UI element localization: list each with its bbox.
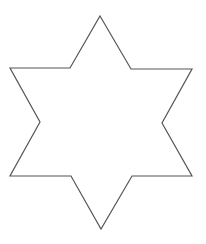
background [0, 0, 206, 244]
figure-canvas [0, 0, 206, 244]
star-diagram [0, 0, 206, 244]
